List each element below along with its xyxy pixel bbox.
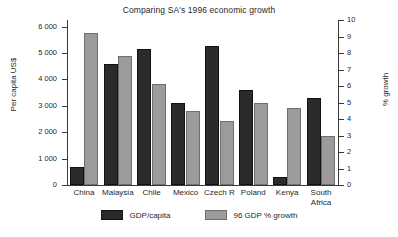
bar-gdp-capita [307,98,321,185]
y-axis-right-tick-label: 4 [347,115,351,123]
legend-label: GDP/capita [130,211,171,220]
chart-legend: GDP/capita 96 GDP % growth [0,210,398,220]
y-axis-left-tick-label: 2 000 [38,128,57,136]
y-axis-right-tick-label: 8 [347,49,351,57]
x-axis-line [67,185,339,186]
y-axis-right-tick [338,20,344,21]
bar-gdp-growth [220,121,234,185]
bar-group [239,20,268,185]
y-axis-right-tick [338,185,344,186]
bar-gdp-growth [118,56,132,185]
y-axis-right-tick [338,37,344,38]
y-axis-left-title: Per capita US$ [9,37,18,133]
bar-group [104,20,133,185]
bar-group [171,20,200,185]
bar-group [70,20,99,185]
y-axis-left-tick-label: 5 000 [38,49,57,57]
y-axis-right-tick [338,136,344,137]
y-axis-right-tick-label: 3 [347,132,351,140]
bar-gdp-capita [205,46,219,185]
y-axis-right-tick-label: 9 [347,33,351,41]
y-axis-right-tick-label: 0 [347,181,351,189]
bar-gdp-capita [171,103,185,185]
y-axis-right-tick-label: 1 [347,165,351,173]
bar-gdp-growth [152,84,166,185]
y-axis-left-tick [62,185,68,186]
chart-container: Comparing SA's 1996 economic growth Per … [0,0,398,237]
bar-gdp-capita [273,177,287,185]
chart-title: Comparing SA's 1996 economic growth [0,5,398,15]
bar-gdp-capita [70,167,84,185]
legend-swatch-icon [205,210,227,220]
legend-item-gdp-growth: 96 GDP % growth [205,210,298,220]
bar-gdp-capita [239,90,253,185]
x-axis-label: SouthAfrica [298,188,344,207]
legend-item-gdp-capita: GDP/capita [101,210,171,220]
bar-gdp-growth [287,108,301,185]
bar-gdp-growth [84,33,98,185]
y-axis-right-tick [338,119,344,120]
y-axis-right-tick [338,103,344,104]
y-axis-right-tick-label: 10 [347,16,355,24]
bar-gdp-growth [254,103,268,186]
y-axis-left-tick-label: 3 000 [38,102,57,110]
legend-label: 96 GDP % growth [234,211,298,220]
y-axis-right-tick [338,53,344,54]
y-axis-right-tick [338,169,344,170]
y-axis-right-tick-label: 6 [347,82,351,90]
y-axis-left-tick-label: 4 000 [38,75,57,83]
bar-group [205,20,234,185]
bar-group [307,20,336,185]
bar-gdp-capita [104,64,118,185]
y-axis-left-tick-label: 1 000 [38,155,57,163]
bar-group [137,20,166,185]
bar-group [273,20,302,185]
y-axis-right-tick [338,152,344,153]
y-axis-right-tick [338,70,344,71]
y-axis-right-tick-label: 5 [347,99,351,107]
legend-swatch-icon [101,210,123,220]
bar-gdp-capita [137,49,151,185]
y-axis-left-tick-label: 0 [53,181,57,189]
plot-area [67,20,338,185]
y-axis-right-tick-label: 7 [347,66,351,74]
y-axis-right-tick-label: 2 [347,148,351,156]
y-axis-left-tick-label: 6 000 [38,23,57,31]
bar-gdp-growth [321,136,335,186]
y-axis-right-title: % growth [381,42,390,138]
bar-gdp-growth [186,111,200,185]
y-axis-right-tick [338,86,344,87]
